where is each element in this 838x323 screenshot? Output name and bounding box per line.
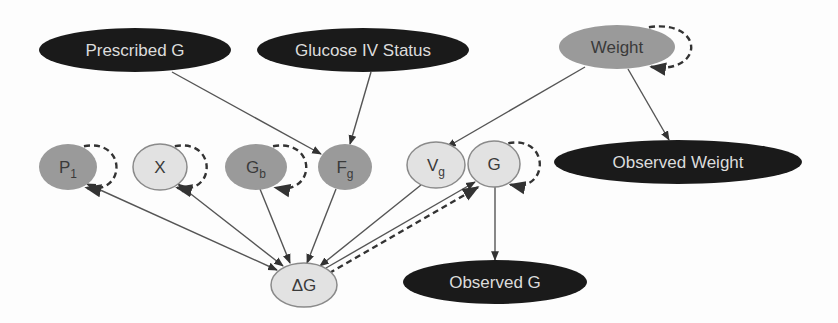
node-g[interactable]: G (468, 141, 520, 187)
node-label: Observed Weight (612, 153, 743, 172)
diagram-canvas: Prescribed GGlucose IV StatusWeightP1XGb… (0, 0, 838, 323)
node-label: Prescribed G (85, 41, 184, 60)
node-label: G (487, 155, 500, 174)
node-fg[interactable]: Fg (318, 144, 372, 190)
bayesian-network-graph: Prescribed GGlucose IV StatusWeightP1XGb… (0, 0, 838, 323)
node-p1[interactable]: P1 (39, 144, 97, 190)
edge-fg-to-delta_g (307, 189, 336, 263)
node-label: Glucose IV Status (295, 41, 431, 60)
edge-prescribed_g-to-fg (172, 72, 321, 154)
node-label: X (154, 158, 165, 177)
node-glucose_iv[interactable]: Glucose IV Status (257, 28, 469, 72)
edge-weight-to-vg (447, 67, 585, 147)
nodes-layer: Prescribed GGlucose IV StatusWeightP1XGb… (39, 25, 802, 307)
node-vg[interactable]: Vg (407, 142, 465, 188)
node-observed_weight[interactable]: Observed Weight (554, 140, 802, 184)
node-label: Weight (591, 38, 644, 57)
node-prescribed_g[interactable]: Prescribed G (39, 28, 231, 72)
node-label: ΔG (292, 276, 317, 295)
edge-p1-to-delta_g (87, 184, 277, 270)
edge-delta_g-to-g (326, 182, 478, 273)
edge-weight-to-observed_weight (628, 69, 669, 140)
edge-vg-to-delta_g (320, 185, 421, 266)
node-gb[interactable]: Gb (225, 144, 287, 190)
node-x[interactable]: X (133, 144, 187, 190)
node-label: Observed G (449, 273, 541, 292)
node-delta_g[interactable]: ΔG (271, 263, 337, 307)
node-observed_g[interactable]: Observed G (403, 260, 587, 304)
dashed-edge (329, 187, 478, 273)
node-weight[interactable]: Weight (559, 25, 675, 69)
edge-x-to-delta_g (178, 184, 283, 266)
edge-glucose_iv-to-fg (350, 72, 371, 144)
